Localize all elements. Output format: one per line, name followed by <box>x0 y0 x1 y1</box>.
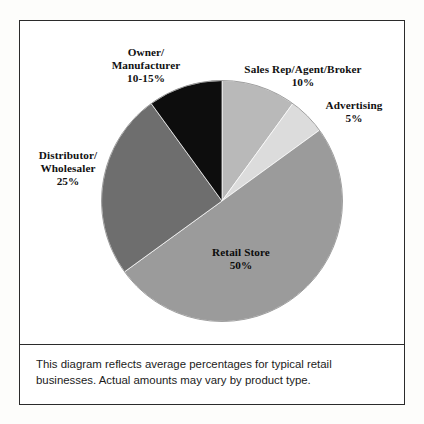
figure-caption-line2: businesses. Actual amounts may vary by p… <box>36 372 392 388</box>
slice-label-owner-line1: Owner/ <box>86 46 206 59</box>
slice-label-advertising-value: 5% <box>296 112 412 125</box>
slice-label-advertising-line1: Advertising <box>296 99 412 112</box>
slice-label-sales-rep-line1: Sales Rep/Agent/Broker <box>224 63 382 76</box>
slice-label-distributor-line1: Distributor/ <box>12 149 124 162</box>
slice-label-owner-manufacturer: Owner/ Manufacturer 10-15% <box>86 46 206 84</box>
slice-label-sales-rep: Sales Rep/Agent/Broker 10% <box>224 63 382 89</box>
slice-label-owner-value: 10-15% <box>86 72 206 85</box>
slice-label-retail-line1: Retail Store <box>186 246 296 259</box>
caption-divider <box>20 344 404 345</box>
figure-page: Owner/ Manufacturer 10-15% Sales Rep/Age… <box>0 0 424 424</box>
slice-label-distributor-wholesaler: Distributor/ Wholesaler 25% <box>12 149 124 187</box>
slice-label-retail-store: Retail Store 50% <box>186 246 296 272</box>
slice-label-owner-line2: Manufacturer <box>86 59 206 72</box>
slice-label-retail-value: 50% <box>186 259 296 272</box>
figure-caption-line1: This diagram reflects average percentage… <box>36 356 392 372</box>
slice-label-distributor-value: 25% <box>12 175 124 188</box>
slice-label-advertising: Advertising 5% <box>296 99 412 125</box>
figure-caption: This diagram reflects average percentage… <box>36 356 392 388</box>
slice-label-distributor-line2: Wholesaler <box>12 162 124 175</box>
slice-label-sales-rep-value: 10% <box>224 76 382 89</box>
